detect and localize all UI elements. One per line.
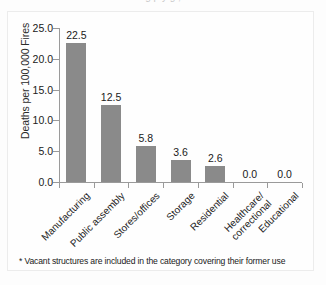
plot-area: Deaths per 100,000 Fires 0.05.010.015.02… bbox=[8, 12, 315, 272]
chart-screenshot: g p y g , Deaths per 100,000 Fires 0.05.… bbox=[0, 0, 326, 285]
x-axis-line bbox=[59, 182, 302, 183]
bar-value-label: 5.8 bbox=[126, 133, 166, 144]
bars-layer bbox=[59, 28, 302, 182]
bar-value-label: 12.5 bbox=[91, 92, 131, 103]
bar bbox=[136, 146, 156, 182]
bar bbox=[205, 166, 225, 182]
bar-value-label: 0.0 bbox=[265, 169, 305, 180]
y-tick-label: 20.0 bbox=[13, 54, 53, 65]
bar bbox=[66, 43, 86, 182]
x-tick-mark bbox=[233, 183, 234, 188]
x-tick-mark bbox=[163, 183, 164, 188]
bar-value-label: 2.6 bbox=[195, 153, 235, 164]
x-tick-mark bbox=[94, 183, 95, 188]
x-tick-mark bbox=[198, 183, 199, 188]
x-tick-mark bbox=[302, 183, 303, 188]
x-tick-mark bbox=[59, 183, 60, 188]
chart-frame: Deaths per 100,000 Fires 0.05.010.015.02… bbox=[7, 11, 314, 271]
y-tick-label: 10.0 bbox=[13, 115, 53, 126]
bar-value-label: 22.5 bbox=[56, 30, 96, 41]
y-tick-label: 5.0 bbox=[13, 146, 53, 157]
cropped-title-remnant: g p y g , bbox=[0, 0, 326, 3]
x-tick-mark bbox=[267, 183, 268, 188]
y-tick-label: 15.0 bbox=[13, 85, 53, 96]
bar bbox=[101, 105, 121, 182]
footnote: * Vacant structures are included in the … bbox=[19, 256, 309, 266]
y-tick-label: 25.0 bbox=[13, 23, 53, 34]
bar bbox=[171, 160, 191, 182]
x-tick-mark bbox=[128, 183, 129, 188]
y-tick-label: 0.0 bbox=[13, 177, 53, 188]
